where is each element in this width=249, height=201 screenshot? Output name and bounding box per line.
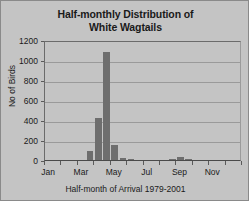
y-axis-tick-label: 600 [0, 97, 38, 105]
bar [169, 159, 176, 160]
x-axis-tick-mark [175, 161, 176, 165]
chart-title-line-1: Half-monthly Distribution of [1, 8, 249, 21]
y-axis-tick-label: 1200 [0, 37, 38, 45]
plot-area [44, 41, 241, 161]
bar [87, 151, 94, 160]
x-axis-tick-mark [77, 161, 78, 165]
y-axis-tick-label: 400 [0, 117, 38, 125]
x-axis-tick-mark [159, 161, 160, 165]
chart-title-line-2: White Wagtails [1, 21, 249, 34]
bar [177, 157, 184, 160]
x-axis-tick-mark [126, 161, 127, 165]
chart-screenshot: Half-monthly Distribution of White Wagta… [0, 0, 249, 201]
bar [111, 145, 118, 160]
x-axis-tick-label: Nov [192, 167, 232, 177]
bar-series [45, 42, 240, 160]
bar [95, 118, 102, 160]
x-axis-tick-mark [241, 161, 242, 165]
x-axis-tick-mark [93, 161, 94, 165]
y-axis-tick-label: 200 [0, 137, 38, 145]
y-axis-title: No of Birds [7, 56, 17, 116]
bar [128, 159, 135, 160]
x-axis-tick-mark [208, 161, 209, 165]
bar [120, 158, 127, 160]
y-axis-tick-label: 800 [0, 77, 38, 85]
x-axis-tick-mark [225, 161, 226, 165]
bar [103, 52, 110, 160]
x-axis-tick-mark [110, 161, 111, 165]
x-axis-tick-mark [60, 161, 61, 165]
x-axis-tick-mark [192, 161, 193, 165]
x-axis-tick-mark [143, 161, 144, 165]
x-axis-title: Half-month of Arrival 1979-2001 [1, 184, 249, 194]
y-axis-tick-label: 1000 [0, 57, 38, 65]
bar [185, 159, 192, 160]
page-title: Half-monthly Distribution of White Wagta… [1, 8, 249, 34]
x-axis-tick-mark [44, 161, 45, 165]
y-axis-tick-label: 0 [0, 157, 38, 165]
